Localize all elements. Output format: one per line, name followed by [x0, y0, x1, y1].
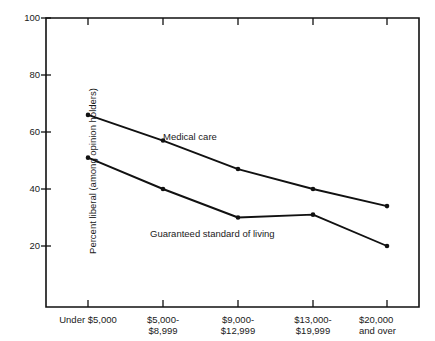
chart-plot: [0, 0, 435, 341]
data-point: [86, 155, 91, 160]
chart-figure: Percent liberal (among opinion holders) …: [0, 0, 435, 341]
data-point: [236, 215, 241, 220]
data-series-group: [86, 113, 390, 249]
x-tick-marks: [88, 18, 387, 307]
data-point: [385, 204, 390, 209]
data-point: [311, 212, 316, 217]
data-point: [161, 187, 166, 192]
data-point: [385, 244, 390, 249]
data-point: [311, 187, 316, 192]
data-point: [236, 167, 241, 172]
data-point: [86, 113, 91, 118]
series-line-0: [88, 115, 387, 206]
data-point: [161, 138, 166, 143]
